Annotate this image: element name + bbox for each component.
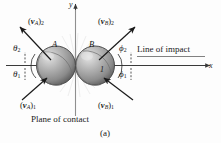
phi1-index: 1 [124, 73, 127, 79]
angle-phi2-label: ϕ2 [119, 44, 127, 54]
angle-theta1-arc [31, 66, 36, 79]
vector-vB1-arrow [104, 78, 133, 100]
sphere-a [37, 46, 76, 85]
vB1-index: 1 [111, 104, 114, 110]
y-axis-label: y [69, 1, 73, 9]
angle-theta1-label: θ1 [13, 70, 20, 80]
impact-diagram: y x Line of impact A B 1 (vA)2 (vB)2 (vA… [0, 0, 221, 143]
vector-vB1-label: (vB)1 [98, 101, 114, 111]
angle-phi1-label: ϕ1 [119, 70, 127, 80]
vector-vA1-arrow [22, 78, 47, 100]
x-axis-label: x [209, 62, 213, 70]
theta2-index: 2 [17, 47, 20, 53]
phi2-index: 2 [124, 47, 127, 53]
vA1-index: 1 [33, 104, 36, 110]
vector-vB2-arrow [99, 27, 135, 60]
plane-of-contact-label: Plane of contact [31, 115, 89, 124]
mark-one-label: 1 [100, 66, 104, 74]
angle-theta2-label: θ2 [13, 44, 20, 54]
theta1-index: 1 [17, 73, 20, 79]
line-of-impact-label: Line of impact [137, 45, 190, 54]
vector-vB2-label: (vB)2 [98, 17, 114, 27]
vB2-index: 2 [111, 20, 114, 26]
angle-phi2-arc [118, 54, 122, 66]
angle-theta2-arc [31, 54, 35, 66]
vector-vA2-label: (vA)2 [28, 17, 44, 27]
vA2-index: 2 [41, 20, 44, 26]
vector-vA1-label: (vA)1 [20, 101, 36, 111]
figure-caption: (a) [100, 129, 110, 138]
sphere-a-label: A [52, 40, 57, 49]
sphere-b-label: B [89, 40, 94, 49]
